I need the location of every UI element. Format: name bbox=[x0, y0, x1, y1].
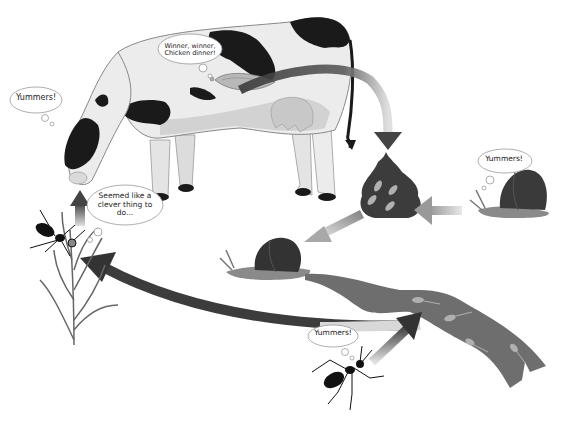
dung-icon bbox=[361, 152, 421, 218]
arrow-slime-to-grass bbox=[80, 252, 420, 327]
arrow-ant-to-slime bbox=[372, 312, 422, 362]
bubble-text-cow: Yummers! bbox=[12, 93, 60, 102]
bubble-text-ant-grass: Seemed like a clever thing to do... bbox=[92, 192, 158, 218]
lifecycle-diagram: Winner, winner, Chicken dinner! Yummers!… bbox=[0, 0, 569, 422]
arrow-snail-to-dung bbox=[414, 196, 462, 225]
snail-icon bbox=[220, 238, 310, 280]
snail-eating-icon bbox=[470, 170, 549, 218]
bubble-text-fluke: Winner, winner, Chicken dinner! bbox=[161, 43, 219, 58]
arrow-dung-to-snail bbox=[304, 214, 362, 242]
bubble-text-ant-slime: Yummers! bbox=[311, 329, 355, 338]
bubble-text-snail: Yummers! bbox=[479, 155, 529, 164]
